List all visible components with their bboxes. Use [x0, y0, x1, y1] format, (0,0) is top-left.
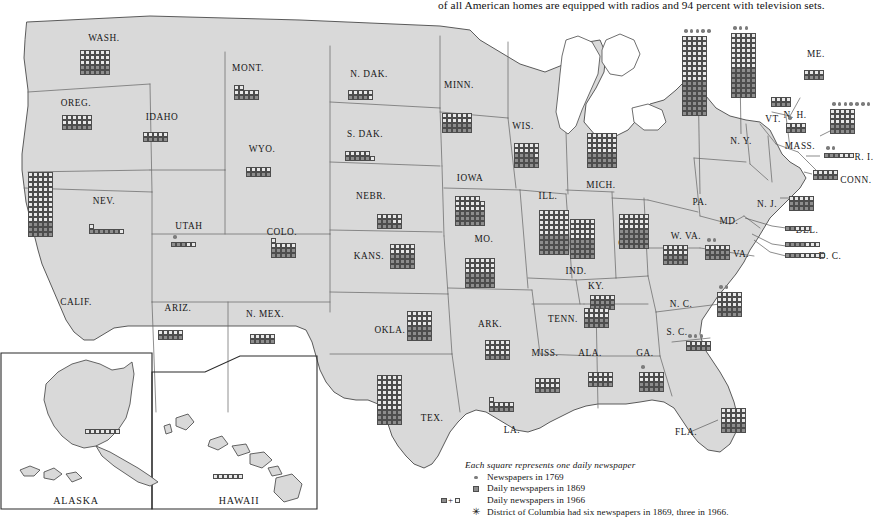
newspaper-grid-ga — [639, 372, 664, 392]
square-1869 — [87, 125, 92, 130]
state-label-r-i: R. I. — [854, 152, 873, 162]
square-1869 — [741, 428, 746, 433]
square-1869 — [604, 323, 609, 328]
dark-plus-light-square-icon: + — [441, 495, 487, 506]
square-1966 — [238, 474, 243, 479]
newspaper-grid-ark — [485, 340, 510, 360]
dot-icon — [690, 29, 694, 33]
dot-row-1769-s-c — [688, 334, 703, 338]
state-label-mo: MO. — [475, 234, 494, 244]
newspaper-grid-n-c — [717, 292, 742, 317]
dot-icon — [838, 102, 842, 106]
legend-label-1769: Newspapers in 1769 — [487, 472, 564, 483]
state-label-n-y: N. Y. — [730, 136, 752, 146]
state-label-utah: UTAH — [175, 221, 202, 231]
state-label-n-dak: N. DAK. — [350, 69, 388, 79]
inset-label-alaska: ALASKA — [53, 495, 98, 506]
square-1869 — [509, 407, 514, 412]
square-1966 — [370, 156, 375, 161]
dot-row-1769-ga — [641, 365, 645, 369]
dot-row-1769-utah — [173, 235, 177, 239]
newspaper-grid-ala — [588, 372, 613, 387]
newspaper-grid-n-j — [789, 196, 814, 211]
state-label-ala: ALA. — [578, 348, 602, 358]
newspaper-grid-wyo — [246, 167, 271, 177]
newspaper-grid-va — [705, 245, 730, 260]
square-1869 — [178, 335, 183, 340]
square-1869 — [266, 172, 271, 177]
square-1869 — [850, 129, 855, 134]
newspaper-grid-mass — [830, 109, 855, 134]
legend-item-1966: + Daily newspapers in 1966 — [441, 495, 767, 506]
state-label-la: LA. — [504, 425, 520, 435]
square-1869 — [564, 250, 569, 255]
newspaper-grid-hawaii — [213, 474, 243, 479]
square-1869 — [608, 382, 613, 387]
newspaper-grid-oreg — [62, 115, 92, 130]
state-label-miss: MISS. — [532, 348, 559, 358]
state-label-mass: MASS. — [785, 141, 815, 151]
dot-icon — [707, 238, 711, 242]
newspaper-grid-md — [785, 242, 820, 247]
dot-icon — [641, 365, 645, 369]
square-1869 — [725, 255, 730, 260]
square-1869 — [555, 388, 560, 393]
dot-icon — [867, 102, 871, 106]
legend-item-1869: Daily newspapers in 1869 — [465, 483, 767, 494]
newspaper-grid-ohio — [619, 214, 649, 249]
legend-label-dc-note: District of Columbia had six newspapers … — [487, 507, 729, 518]
dot-icon — [832, 146, 836, 150]
state-label-nev: NEV. — [93, 196, 115, 206]
dot-row-1769-n-c — [719, 285, 728, 289]
dot-icon — [788, 116, 792, 120]
newspaper-grid-alaska — [85, 429, 120, 434]
dot-icon — [849, 102, 853, 106]
square-1869 — [534, 163, 539, 168]
state-label-me: ME. — [807, 49, 825, 59]
dot-icon — [173, 235, 177, 239]
square-1869 — [683, 260, 688, 265]
state-label-s-dak: S. DAK. — [347, 129, 383, 139]
square-1966 — [368, 95, 373, 100]
state-label-n-c: N. C. — [670, 299, 693, 309]
square-1869 — [505, 355, 510, 360]
state-label-wash: WASH. — [88, 33, 119, 43]
state-label-mich: MICH. — [586, 180, 615, 190]
newspaper-grid-ind — [570, 219, 595, 259]
legend-item-dc-note: ✳ District of Columbia had six newspaper… — [465, 507, 767, 518]
square-1869 — [467, 128, 472, 133]
newspaper-grid-miss — [535, 378, 560, 393]
legend-label-1869: Daily newspapers in 1869 — [487, 483, 585, 494]
state-label-vt: VT. — [765, 114, 781, 124]
state-label-oreg: OREG. — [61, 98, 91, 108]
square-1869 — [270, 339, 275, 344]
state-label-tex: TEX. — [421, 413, 444, 423]
newspaper-grid-d-c — [785, 253, 825, 258]
newspaper-grid-nev — [89, 224, 124, 234]
legend-title: Each square represents one daily newspap… — [465, 460, 767, 471]
square-1869 — [702, 111, 707, 116]
state-label-md: MD. — [720, 216, 739, 226]
newspaper-grid-pa — [682, 36, 707, 116]
square-1869 — [809, 206, 814, 211]
square-1869 — [163, 137, 168, 142]
square-1869 — [610, 305, 615, 310]
state-label-ind: IND. — [565, 266, 586, 276]
state-label-conn: CONN. — [840, 175, 871, 185]
square-1869 — [833, 175, 838, 180]
dot-row-1769-n-h — [788, 116, 792, 120]
newspaper-grid-n-mex — [250, 334, 275, 344]
state-label-va: VA. — [733, 249, 749, 259]
newspaper-grid-la — [489, 397, 514, 412]
square-1869 — [737, 312, 742, 317]
newspaper-grid-r-i — [824, 153, 854, 158]
state-label-iowa: IOWA — [457, 173, 483, 183]
state-label-idaho: IDAHO — [146, 112, 179, 122]
state-label-w-va: W. VA. — [671, 231, 701, 241]
newspaper-grid-ariz — [158, 330, 183, 340]
dot-icon — [465, 476, 487, 479]
square-1869 — [105, 70, 110, 75]
dot-row-1769-pa — [684, 29, 711, 33]
square-1869 — [490, 283, 495, 288]
dot-icon — [700, 334, 704, 338]
